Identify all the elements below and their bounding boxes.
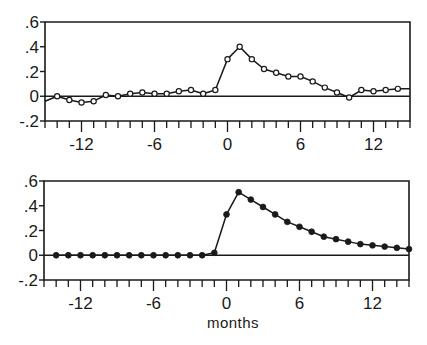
open-circle-marker <box>225 57 230 62</box>
figure: .6.4.20-.2-12-60612 .6.4.20-.2-12-60612 … <box>0 0 427 345</box>
open-circle-marker <box>115 94 120 99</box>
y-tick-label: .6 <box>25 13 39 32</box>
x-tick-label: -12 <box>69 135 94 154</box>
filled-circle-marker <box>65 252 71 258</box>
open-circle-marker <box>322 85 327 90</box>
filled-circle-marker <box>309 229 315 235</box>
filled-circle-marker <box>248 197 254 203</box>
filled-circle-marker <box>78 252 84 258</box>
plot-frame <box>44 181 409 280</box>
y-tick-label: .4 <box>25 38 39 57</box>
filled-circle-marker <box>175 252 181 258</box>
x-tick-label: 12 <box>363 294 382 313</box>
y-tick-label: -.2 <box>19 112 39 131</box>
filled-circle-marker <box>224 212 230 218</box>
y-tick-label: .2 <box>24 222 38 241</box>
filled-circle-marker <box>272 212 278 218</box>
y-tick-label: .2 <box>25 63 39 82</box>
x-tick-label: 0 <box>223 135 232 154</box>
open-circle-marker <box>176 89 181 94</box>
open-circle-marker <box>310 79 315 84</box>
open-circle-marker <box>103 92 108 97</box>
open-circle-marker <box>334 90 339 95</box>
filled-circle-marker <box>187 252 193 258</box>
y-tick-label: .4 <box>24 197 38 216</box>
x-tick-label: -6 <box>146 294 161 313</box>
y-tick-label: 0 <box>30 87 39 106</box>
filled-circle-marker <box>333 236 339 242</box>
open-circle-marker <box>249 57 254 62</box>
plot-frame <box>45 22 410 121</box>
filled-circle-marker <box>382 244 388 250</box>
open-circle-marker <box>152 91 157 96</box>
x-tick-label: 0 <box>222 294 231 313</box>
open-circle-marker <box>359 87 364 92</box>
filled-circle-marker <box>297 224 303 230</box>
y-tick-label: .6 <box>24 172 38 191</box>
y-tick-label: 0 <box>29 246 38 265</box>
open-circle-marker <box>140 90 145 95</box>
filled-circle-marker <box>394 245 400 251</box>
filled-circle-marker <box>102 252 108 258</box>
open-circle-marker <box>128 91 133 96</box>
filled-circle-marker <box>260 204 266 210</box>
open-circle-marker <box>371 89 376 94</box>
filled-circle-marker <box>357 241 363 247</box>
filled-circle-marker <box>163 252 169 258</box>
open-circle-marker <box>213 87 218 92</box>
x-tick-label: -12 <box>68 294 93 313</box>
open-circle-marker <box>79 100 84 105</box>
open-circle-marker <box>67 97 72 102</box>
bottom-panel-chart: .6.4.20-.2-12-60612 <box>18 172 412 313</box>
filled-circle-marker <box>199 252 205 258</box>
filled-circle-marker <box>114 252 120 258</box>
x-tick-label: 12 <box>364 135 383 154</box>
open-circle-marker <box>347 95 352 100</box>
filled-circle-marker <box>138 252 144 258</box>
filled-circle-marker <box>345 239 351 245</box>
data-series-line <box>45 47 410 103</box>
filled-circle-marker <box>53 252 59 258</box>
filled-circle-marker <box>406 246 412 252</box>
open-circle-marker <box>395 86 400 91</box>
data-series-line <box>56 192 409 255</box>
x-tick-label: 6 <box>295 294 304 313</box>
open-circle-marker <box>286 74 291 79</box>
open-circle-marker <box>383 87 388 92</box>
open-circle-marker <box>237 44 242 49</box>
x-tick-label: -6 <box>147 135 162 154</box>
open-circle-marker <box>298 74 303 79</box>
filled-circle-marker <box>126 252 132 258</box>
open-circle-marker <box>188 87 193 92</box>
open-circle-marker <box>201 91 206 96</box>
open-circle-marker <box>261 66 266 71</box>
top-panel-chart: .6.4.20-.2-12-60612 <box>19 13 410 154</box>
x-tick-label: 6 <box>296 135 305 154</box>
filled-circle-marker <box>90 252 96 258</box>
open-circle-marker <box>274 70 279 75</box>
y-tick-label: -.2 <box>18 271 38 290</box>
x-axis-title: months <box>207 314 259 331</box>
open-circle-marker <box>55 94 60 99</box>
open-circle-marker <box>91 99 96 104</box>
filled-circle-marker <box>321 234 327 240</box>
open-circle-marker <box>164 91 169 96</box>
filled-circle-marker <box>284 219 290 225</box>
filled-circle-marker <box>236 189 242 195</box>
filled-circle-marker <box>151 252 157 258</box>
filled-circle-marker <box>370 242 376 248</box>
filled-circle-marker <box>211 250 217 256</box>
